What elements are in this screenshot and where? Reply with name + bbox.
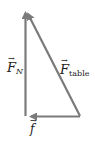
table-force-label: → Ftable (60, 62, 89, 78)
vector-arrow-icon: → (30, 116, 37, 125)
friction-label: → f (30, 122, 34, 136)
vector-arrow-icon: → (61, 56, 68, 65)
vector-arrow-icon: → (8, 54, 15, 63)
normal-force-label: → FN (7, 60, 23, 76)
